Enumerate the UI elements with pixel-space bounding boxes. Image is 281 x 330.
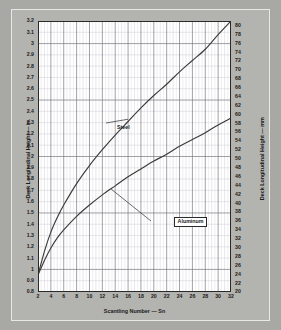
y-tick-left: 1.1 [27,256,34,261]
y-tick-left: 0.9 [27,278,34,283]
plot-area: Steel Aluminum [38,21,231,292]
y-tick-right: 66 [235,85,241,90]
y-tick-right: 48 [235,165,241,170]
y-tick-right: 56 [235,129,241,134]
y-tick-left: 2.6 [27,86,34,91]
figure-inner: Steel Aluminum 0.80.911.11.21.31.41.51.6… [12,10,269,320]
y-tick-left: 3 [31,41,34,46]
x-tick: 16 [125,294,131,299]
y-tick-right: 62 [235,103,241,108]
y-tick-right: 78 [235,32,241,37]
y-tick-right: 42 [235,192,241,197]
y-axis-right-title: Deck Longitudinal Height — mm [260,104,265,214]
y-tick-right: 52 [235,147,241,152]
y-tick-right: 28 [235,254,241,259]
y-tick-left: 1.3 [27,233,34,238]
y-tick-right: 44 [235,183,241,188]
y-tick-right: 68 [235,76,241,81]
y-tick-left: 1.2 [27,244,34,249]
x-tick: 20 [151,294,157,299]
y-tick-right: 32 [235,236,241,241]
y-tick-right: 26 [235,263,241,268]
y-tick-right: 34 [235,227,241,232]
y-tick-right: 64 [235,94,241,99]
series-label-aluminum: Aluminum [174,217,207,227]
y-tick-right: 58 [235,121,241,126]
x-tick: 28 [202,294,208,299]
x-tick: 4 [49,294,52,299]
x-tick: 14 [112,294,118,299]
x-axis-title: Scantling Number — Sn [38,309,231,314]
y-tick-left: 2.7 [27,75,34,80]
y-tick-right: 22 [235,281,241,286]
x-tick: 24 [177,294,183,299]
x-tick: 2 [37,294,40,299]
y-axis-left-ticks: 0.80.911.11.21.31.41.51.61.71.81.922.12.… [12,21,36,292]
figure-panel: Steel Aluminum 0.80.911.11.21.31.41.51.6… [11,9,270,321]
x-tick: 26 [190,294,196,299]
y-tick-left: 2.8 [27,64,34,69]
x-tick: 12 [99,294,105,299]
x-tick: 18 [138,294,144,299]
y-tick-right: 24 [235,272,241,277]
y-tick-left: 1 [31,267,34,272]
y-tick-left: 2.9 [27,52,34,57]
y-tick-right: 60 [235,112,241,117]
y-tick-left: 3.1 [27,30,34,35]
y-tick-right: 50 [235,156,241,161]
x-tick: 30 [215,294,221,299]
y-tick-left: 1.4 [27,222,34,227]
y-tick-right: 40 [235,201,241,206]
y-tick-right: 72 [235,58,241,63]
y-tick-right: 70 [235,67,241,72]
series-label-steel: Steel [117,125,130,130]
y-tick-right: 20 [235,289,241,294]
y-tick-right: 30 [235,245,241,250]
x-tick: 32 [228,294,234,299]
x-tick: 6 [62,294,65,299]
x-tick: 10 [87,294,93,299]
x-tick: 22 [164,294,170,299]
y-tick-right: 74 [235,50,241,55]
y-axis-right-ticks: 2022242628303234363840424446485052545658… [233,21,259,292]
chart-canvas [38,21,231,292]
y-tick-right: 46 [235,174,241,179]
y-tick-right: 76 [235,41,241,46]
y-axis-left-title: Deck Longitudinal Height — in. [26,104,31,214]
y-tick-left: 3.2 [27,18,34,23]
y-tick-right: 54 [235,138,241,143]
x-axis-ticks: 2468101214161820222426283032 [38,294,231,306]
x-tick: 8 [75,294,78,299]
y-tick-right: 38 [235,209,241,214]
y-tick-right: 36 [235,218,241,223]
y-tick-left: 0.8 [27,289,34,294]
y-tick-right: 80 [235,23,241,28]
y-tick-left: 2.5 [27,97,34,102]
